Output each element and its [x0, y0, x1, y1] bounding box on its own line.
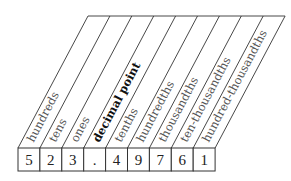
digit: . [93, 152, 97, 168]
digit-boxes: 523.49761 [18, 148, 215, 171]
column-label: ones [68, 114, 93, 145]
digit: 4 [113, 152, 121, 168]
digit: 2 [47, 152, 55, 168]
digit: 7 [157, 152, 165, 168]
digit: 3 [69, 152, 77, 168]
digit: 9 [135, 152, 143, 168]
digit: 6 [179, 152, 187, 168]
slant-line [215, 16, 285, 148]
column-labels: hundredstensonesdecimal pointtenthshundr… [24, 27, 270, 144]
digit: 1 [200, 152, 208, 168]
digit: 5 [25, 152, 33, 168]
place-value-diagram: hundredstensonesdecimal pointtenthshundr… [0, 0, 291, 181]
